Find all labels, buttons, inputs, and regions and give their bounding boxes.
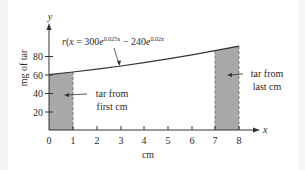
function-curve [49,46,239,75]
function-label: r(x = 300e0.025x − 240e0.02x [62,36,164,48]
x-tick-label: 0 [47,135,52,146]
x-tick-label: 4 [142,135,147,146]
last-cm-label-line1: tar from [251,68,284,79]
x-tick-label: 1 [71,135,76,146]
x-axis-name: x [262,124,268,135]
x-tick-label: 6 [190,135,195,146]
y-tick-label: 20 [33,107,43,118]
y-tick-label: 60 [33,70,43,81]
x-tick-label: 3 [119,135,124,146]
x-ticks [73,126,239,130]
first-cm-label-line2: first cm [97,101,128,112]
y-tick-label: 80 [33,51,43,62]
x-axis-label: cm [142,149,154,160]
y-axis-arrow-icon [47,23,52,30]
y-tick-label: 40 [33,88,43,99]
arrowhead-icon [117,61,121,67]
x-tick-label: 7 [213,135,218,146]
y-axis-label: mg of tar [18,49,29,86]
x-tick-label: 8 [237,135,242,146]
x-tick-label: 2 [95,135,100,146]
shaded-region-last-cm [215,46,239,130]
y-axis-name: y [47,11,53,22]
last-cm-label-line2: last cm [253,81,282,92]
shaded-region-first-cm [49,72,73,130]
x-tick-label: 5 [166,135,171,146]
x-axis-arrow-icon [253,128,260,133]
chart: 0 1 2 3 4 5 6 7 8 20 40 60 80 y x cm mg … [0,0,305,170]
first-cm-label-line1: tar from [96,88,129,99]
